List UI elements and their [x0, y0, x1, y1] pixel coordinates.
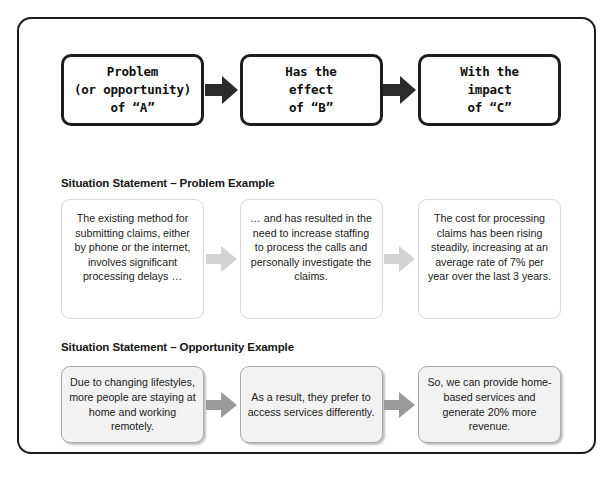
opportunity-arrow-1-container: [204, 366, 240, 443]
problem-row: The existing method for submitting claim…: [61, 199, 561, 319]
arrow-right-icon: [205, 75, 239, 105]
template-box-impact: With the impact of “C”: [418, 54, 561, 126]
diagram-frame: Problem (or opportunity) of “A” Has the …: [17, 17, 596, 454]
template-arrow-1-container: [204, 54, 240, 126]
section-heading-opportunity: Situation Statement – Opportunity Exampl…: [61, 341, 294, 353]
problem-arrow-1-container: [204, 199, 240, 319]
opportunity-box-2: As a result, they prefer to access servi…: [240, 366, 383, 443]
opportunity-row: Due to changing lifestyles, more people …: [61, 366, 561, 443]
opportunity-box-3: So, we can provide home-based services a…: [418, 366, 561, 443]
problem-arrow-2-container: [383, 199, 419, 319]
arrow-right-icon: [206, 244, 238, 274]
template-box-problem: Problem (or opportunity) of “A”: [61, 54, 204, 126]
template-box-effect: Has the effect of “B”: [240, 54, 383, 126]
opportunity-box-1: Due to changing lifestyles, more people …: [61, 366, 204, 443]
section-heading-problem: Situation Statement – Problem Example: [61, 177, 275, 189]
arrow-right-icon: [206, 390, 238, 420]
opportunity-arrow-2-container: [383, 366, 419, 443]
template-arrow-2-container: [383, 54, 419, 126]
arrow-right-icon: [383, 75, 417, 105]
template-row: Problem (or opportunity) of “A” Has the …: [61, 54, 561, 126]
arrow-right-icon: [384, 244, 416, 274]
problem-box-2: … and has resulted in the need to increa…: [240, 199, 383, 319]
problem-box-1: The existing method for submitting claim…: [61, 199, 204, 319]
problem-box-3: The cost for processing claims has been …: [418, 199, 561, 319]
arrow-right-icon: [384, 390, 416, 420]
